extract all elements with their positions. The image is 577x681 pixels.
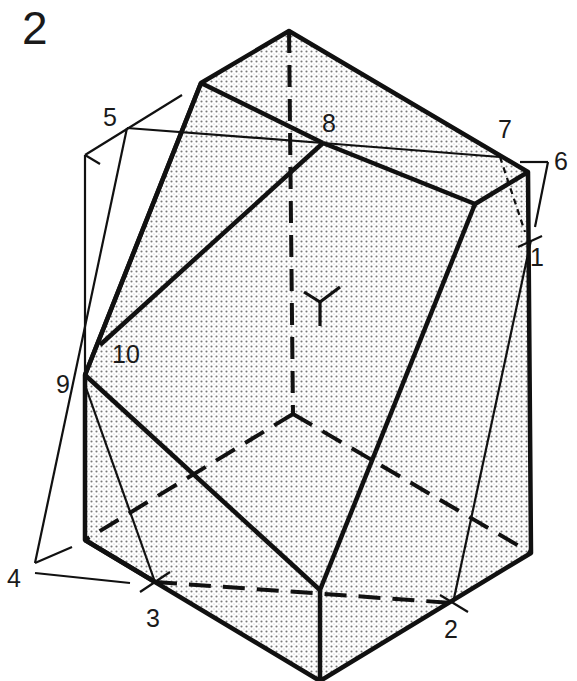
point-label-4: 4 [7,564,21,592]
diagram-canvas: 2 [0,0,577,681]
point-label-9: 9 [56,370,70,398]
point-label-5: 5 [103,103,117,131]
crystal-diagram: 2 [0,0,577,681]
point-label-2: 2 [444,615,458,643]
point-label-10: 10 [112,340,140,368]
point-label-7: 7 [498,115,512,143]
construction-line-5 [85,95,182,155]
figure-number: 2 [22,2,48,54]
point-label-8: 8 [322,109,336,137]
point-label-6: 6 [554,147,568,175]
point-label-1: 1 [530,243,544,271]
point-label-3: 3 [146,604,160,632]
